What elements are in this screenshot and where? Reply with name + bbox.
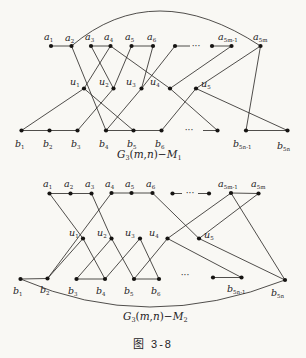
graph-vertex-nb: [211, 275, 215, 279]
graph-diagram-g3mn-minus-m2: ······a1a2a3a4a5a6a5m-1a5mu1u2u3u4u5b1b2…: [0, 166, 306, 358]
graph-vertex-a6: [151, 44, 155, 48]
graph-vertex-a5: [129, 44, 133, 48]
vertex-label-a5m1: a5m-1: [218, 31, 238, 43]
graph-vertex-a5: [129, 191, 133, 195]
graph-vertex-b6: [159, 128, 163, 132]
vertex-label-u5: u5: [204, 229, 214, 241]
vertex-label-a4: a4: [104, 31, 114, 43]
graph-vertex-b5n1: [244, 128, 248, 132]
graph-vertex-b3: [75, 128, 79, 132]
graph-vertex-b1: [18, 277, 22, 281]
vertex-label-u4: u4: [150, 76, 160, 88]
vertex-label-b5n: b5n: [277, 140, 291, 152]
vertex-label-b3: b3: [71, 138, 81, 150]
graph-vertex-b5: [131, 128, 135, 132]
graph-vertex-b4: [104, 128, 108, 132]
ellipsis-dots: ···: [181, 270, 190, 280]
vertex-label-a1: a1: [44, 31, 53, 43]
graph-vertex-nb: [215, 128, 219, 132]
graph-vertex-b2: [47, 128, 51, 132]
graph-edge: [168, 193, 232, 239]
graph-vertex-b3: [74, 277, 78, 281]
vertex-label-u1: u1: [69, 227, 79, 239]
graph-vertex-u3: [139, 86, 143, 90]
graph-vertex-a5m: [258, 44, 262, 48]
graph-vertex-b5n1: [239, 275, 243, 279]
vertex-label-u1: u1: [70, 76, 80, 88]
vertex-label-a3: a3: [85, 31, 95, 43]
figure-caption: 图 3-8: [0, 335, 306, 351]
graph-edge: [50, 194, 84, 239]
graph-vertex-a5m1: [229, 44, 233, 48]
vertex-label-a6: a6: [146, 178, 156, 190]
graph-vertex-a5m1: [229, 191, 233, 195]
vertex-label-a5: a5: [125, 31, 135, 43]
vertex-label-a3: a3: [85, 178, 95, 190]
graph-edge: [105, 239, 140, 280]
graph-edge: [111, 46, 171, 89]
graph-vertex-n7: [173, 44, 177, 48]
vertex-label-a2: a2: [64, 178, 73, 190]
graph-vertex-b5: [132, 277, 136, 281]
vertex-label-b5n: b5n: [271, 287, 285, 299]
vertex-label-u2: u2: [99, 76, 109, 88]
graph-vertex-a2: [69, 44, 73, 48]
graph-edge: [77, 239, 112, 280]
graph-diagram-g3mn-minus-m1: ······a1a2a3a4a5a6a5m-1a5mu1u2u3u4u5b1b2…: [0, 0, 306, 166]
graph-edge: [134, 239, 168, 280]
graph-edge: [168, 239, 242, 278]
vertex-label-b2: b2: [43, 138, 53, 150]
vertex-label-a1: a1: [43, 178, 52, 190]
graph-vertex-n8: [210, 44, 214, 48]
vertex-label-a5m: a5m: [251, 178, 266, 190]
graph-vertex-u1: [82, 86, 86, 90]
graph-vertex-a1: [47, 191, 51, 195]
vertex-label-a4: a4: [105, 178, 115, 190]
graph-vertex-b5n: [285, 128, 289, 132]
graph-vertex-u1: [81, 236, 85, 240]
graph-edge: [22, 89, 85, 131]
graph-edge: [140, 239, 159, 280]
graph-vertex-b4: [103, 277, 107, 281]
vertex-label-b4: b4: [99, 138, 109, 150]
vertex-label-a2: a2: [65, 32, 74, 44]
graph-edge: [196, 89, 288, 131]
graph-caption: G3(m,n)−M1: [117, 148, 182, 162]
vertex-label-b1: b1: [13, 285, 23, 297]
graph-edge: [21, 279, 48, 280]
graph-edge: [48, 239, 84, 279]
graph-vertex-n8: [207, 191, 211, 195]
graph-edge: [153, 193, 200, 239]
ellipsis-dots: ···: [192, 41, 201, 51]
vertex-label-a6: a6: [147, 31, 157, 43]
graph-vertex-b6: [157, 277, 161, 281]
vertex-label-b1: b1: [15, 138, 25, 150]
graph-vertex-u2: [109, 236, 113, 240]
graph-vertex-a4: [109, 191, 113, 195]
vertex-label-b3: b3: [68, 285, 78, 297]
vertex-label-b6: b6: [151, 285, 161, 297]
graph-vertex-u4: [168, 86, 172, 90]
graph-vertex-a3: [89, 191, 93, 195]
graph-vertex-a4: [108, 44, 112, 48]
graph-vertex-b2: [45, 276, 49, 280]
vertex-label-u4: u4: [149, 227, 159, 239]
graph-vertex-a2: [68, 191, 72, 195]
vertex-label-b5n1: b5n-1: [233, 138, 252, 150]
graph-edge: [246, 46, 261, 131]
vertex-label-b2: b2: [40, 284, 50, 296]
vertex-label-u2: u2: [97, 227, 107, 239]
graph-edge: [106, 89, 142, 131]
graph-vertex-u3: [138, 236, 142, 240]
figure-3-8: ······a1a2a3a4a5a6a5m-1a5mu1u2u3u4u5b1b2…: [0, 0, 306, 358]
graph-vertex-n7: [170, 191, 174, 195]
graph-edge: [231, 193, 259, 194]
graph-vertex-a1: [49, 44, 53, 48]
graph-caption: G3(m,n)−M2: [123, 310, 188, 324]
graph-vertex-b5n: [283, 278, 287, 282]
ellipsis-dots: ···: [185, 125, 194, 135]
graph-vertex-u5: [197, 236, 201, 240]
graph-vertex-u5: [194, 86, 198, 90]
vertex-label-a5: a5: [125, 178, 135, 190]
graph-vertex-a3: [89, 44, 93, 48]
